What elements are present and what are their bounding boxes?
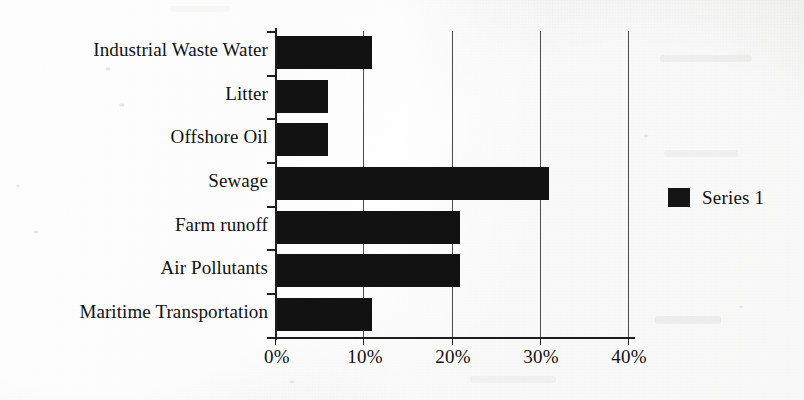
x-axis-tick-label: 0%: [264, 347, 290, 366]
category-label: Sewage: [6, 171, 268, 190]
bar-air-pollutants: [275, 254, 460, 287]
category-label: Maritime Transportation: [6, 302, 268, 321]
bar-maritime-transportation: [275, 298, 372, 331]
y-axis-tick: [267, 293, 275, 295]
y-axis-tick: [267, 118, 275, 120]
plot-area: [275, 31, 628, 337]
gridline-40: [628, 31, 629, 337]
y-axis-tick: [267, 206, 275, 208]
x-axis-tick: [628, 337, 629, 345]
x-axis-tick: [363, 337, 364, 345]
x-axis-tick: [275, 337, 276, 345]
category-label: Farm runoff: [6, 215, 268, 234]
x-axis-tick-label: 40%: [611, 347, 647, 366]
x-axis-line: [268, 337, 635, 339]
x-axis-tick-label: 20%: [435, 347, 471, 366]
y-axis-tick: [267, 75, 275, 77]
legend-label: Series 1: [702, 188, 764, 207]
legend-color-swatch: [668, 188, 690, 207]
category-label: Air Pollutants: [6, 258, 268, 277]
x-axis-tick: [452, 337, 453, 345]
x-axis-tick-label: 10%: [347, 347, 383, 366]
bar-litter: [275, 80, 328, 113]
y-axis-tick: [267, 162, 275, 164]
bar-industrial-waste-water: [275, 36, 372, 69]
category-label: Industrial Waste Water: [6, 40, 268, 59]
y-axis-tick: [267, 31, 275, 33]
category-label: Offshore Oil: [6, 127, 268, 146]
y-axis-tick: [267, 249, 275, 251]
category-axis-labels: Industrial Waste Water Litter Offshore O…: [0, 31, 268, 337]
bar-farm-runoff: [275, 211, 460, 244]
chart-legend: Series 1: [668, 188, 764, 207]
y-axis-line: [275, 28, 277, 340]
x-axis-tick-labels: 0% 10% 20% 30% 40%: [0, 347, 804, 377]
category-label: Litter: [6, 84, 268, 103]
bar-offshore-oil: [275, 123, 328, 156]
x-axis-tick-label: 30%: [523, 347, 559, 366]
x-axis-tick: [540, 337, 541, 345]
bar-chart: Industrial Waste Water Litter Offshore O…: [0, 0, 804, 400]
bar-sewage: [275, 167, 549, 200]
